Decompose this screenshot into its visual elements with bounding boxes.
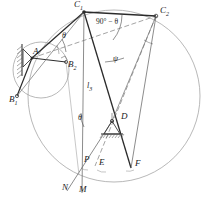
link-A-B1 xyxy=(17,58,32,96)
label-A: A xyxy=(33,47,39,56)
geometry-figure: C1 C2 A B1 B2 D P E F N M θ θ 90° − θ ψ … xyxy=(0,0,209,203)
label-angle-theta-at-D: θ xyxy=(78,114,82,122)
label-B1: B1 xyxy=(9,95,18,106)
link-B1-C1 xyxy=(17,12,84,96)
label-angle-ninety-minus-theta: 90° − θ xyxy=(96,18,118,26)
label-angle-theta-at-A: θ xyxy=(62,32,66,40)
link-A-C1 xyxy=(32,12,84,58)
label-C1: C1 xyxy=(74,0,83,11)
label-F: F xyxy=(135,159,141,168)
dashed-line-A-C2 xyxy=(32,16,156,58)
link-C2-D xyxy=(112,16,156,121)
arc-mark-E xyxy=(97,170,106,172)
label-angle-psi: ψ xyxy=(113,55,118,63)
arc-mark-F xyxy=(126,170,134,171)
label-N: N xyxy=(62,183,68,192)
link-C1-C2 xyxy=(84,12,156,16)
angle-arc-theta-A xyxy=(62,39,66,52)
label-E: E xyxy=(99,158,105,167)
label-B2: B2 xyxy=(68,60,77,71)
link-C2-F xyxy=(131,16,156,168)
label-length-l3: l3 xyxy=(87,82,92,92)
link-A-B2 xyxy=(32,58,66,62)
label-C2: C2 xyxy=(160,6,169,17)
large-circle-C-path xyxy=(28,10,200,182)
label-P: P xyxy=(84,155,90,164)
diagram-canvas xyxy=(0,0,209,203)
label-D: D xyxy=(121,112,128,121)
right-angle-mark-B2 xyxy=(61,56,67,60)
support-D xyxy=(100,119,124,138)
label-M: M xyxy=(79,185,87,194)
